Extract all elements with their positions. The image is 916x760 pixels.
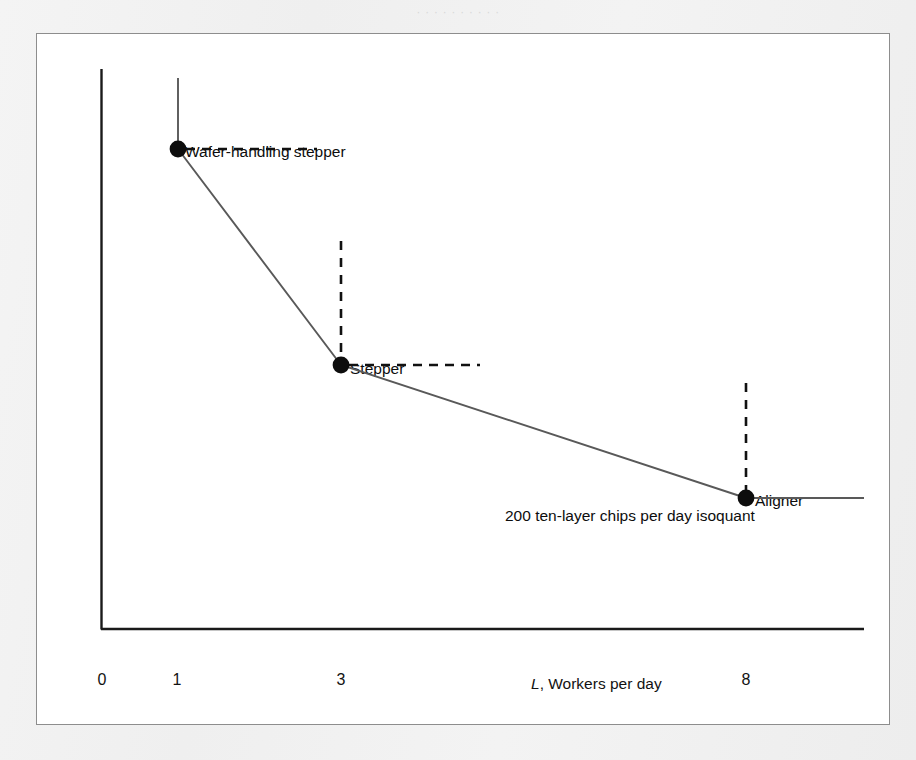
data-point-wafer-handling-stepper[interactable] [170,141,187,158]
isoquant-curve [178,149,746,498]
scan-bleed-through-text: · · · · · · · · · · [0,0,916,24]
figure-frame: K, Units of capital per day L, Workers p… [36,33,890,725]
data-point-aligner[interactable] [738,490,755,507]
data-point-stepper[interactable] [333,357,350,374]
isoquant-plot [37,34,891,726]
